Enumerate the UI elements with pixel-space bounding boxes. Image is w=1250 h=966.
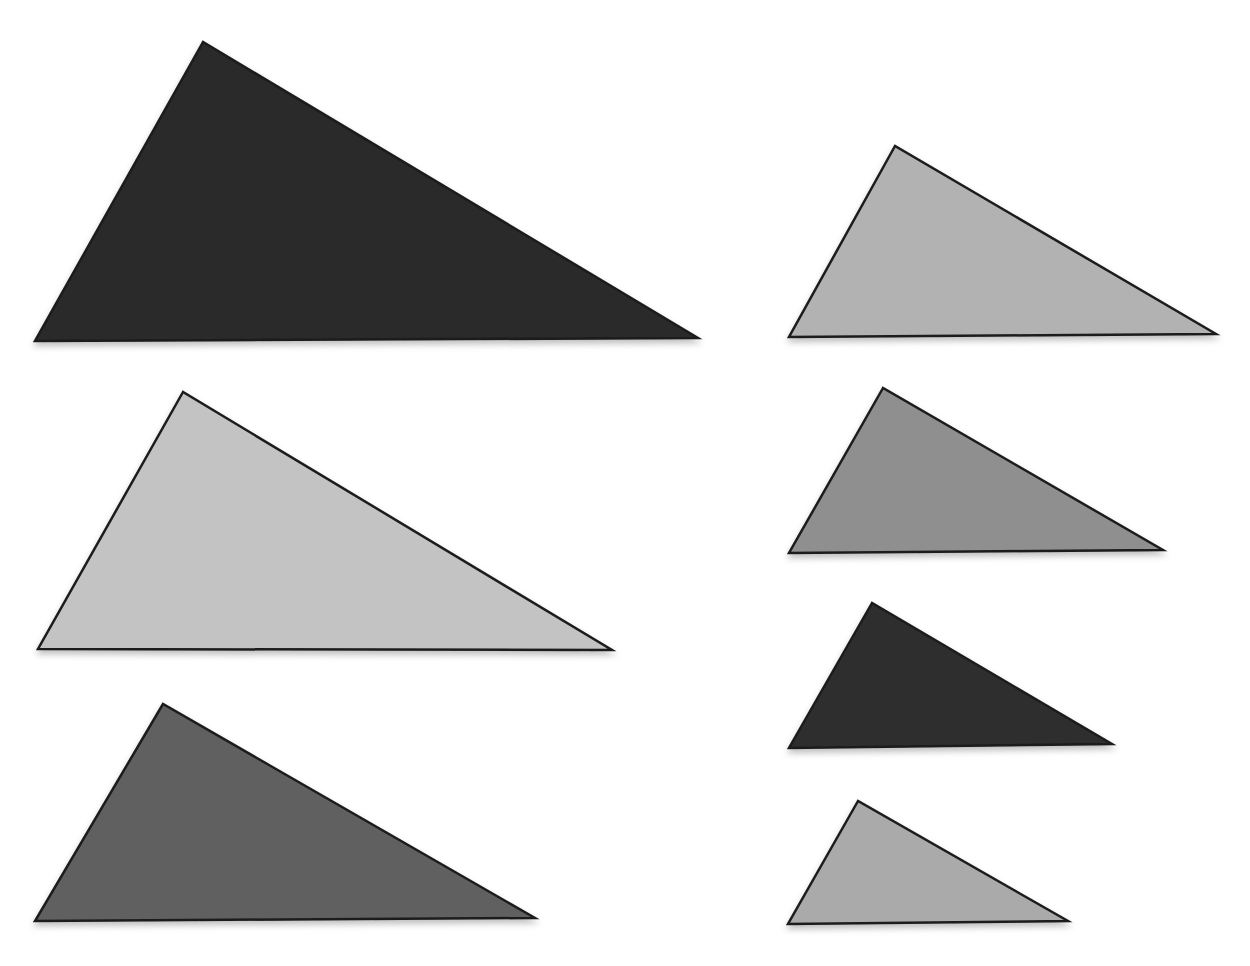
- triangle-right-third-small-dark: [789, 603, 1112, 748]
- triangle-right-fourth-small-light: [788, 801, 1068, 924]
- triangle-left-middle-large-light: [38, 392, 612, 650]
- triangles-figure: [0, 0, 1250, 966]
- triangle-left-top-large-dark: [35, 42, 698, 341]
- triangle-left-bottom-large-medium: [35, 704, 535, 921]
- triangle-right-second-small-medium: [789, 388, 1163, 553]
- figure-canvas: [0, 0, 1250, 966]
- triangle-right-first-small-light: [789, 146, 1216, 337]
